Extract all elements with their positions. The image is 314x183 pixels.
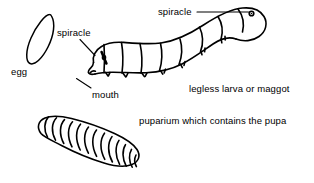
label-spiracle-posterior: spiracle <box>158 7 192 17</box>
puparium-outline <box>38 116 139 167</box>
label-spiracle-anterior: spiracle <box>57 28 91 38</box>
spiracle-anterior-leader <box>80 40 95 56</box>
label-egg: egg <box>11 67 27 77</box>
label-mouth: mouth <box>92 90 119 100</box>
egg-outline <box>27 15 54 64</box>
fly-life-stages-figure: egg spiracle spiracle mouth legless larv… <box>0 0 314 183</box>
mouth-leader <box>77 79 92 89</box>
label-legless-larva: legless larva or maggot <box>189 84 290 94</box>
leader-lines <box>77 12 249 88</box>
maggot-outline <box>88 8 266 77</box>
label-puparium: puparium which contains the pupa <box>139 116 286 126</box>
